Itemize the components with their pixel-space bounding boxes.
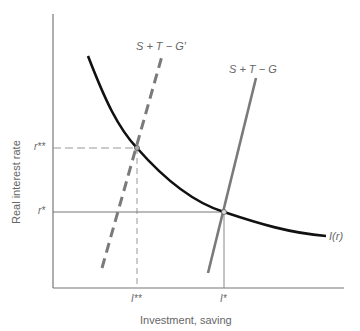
investment-curve [88, 56, 326, 236]
original-equilibrium-point [222, 210, 227, 215]
r-star-tick: r* [38, 205, 46, 216]
saving-curve-shifted [102, 56, 162, 268]
r-double-star-tick: r** [34, 141, 46, 152]
investment-curve-label: I(r) [329, 230, 343, 242]
new-equilibrium-point [135, 146, 140, 151]
saving-curve-original [208, 78, 256, 273]
x-axis-label: Investment, saving [140, 314, 232, 326]
i-double-star-tick: I** [131, 293, 143, 304]
i-star-tick: I* [220, 293, 228, 304]
saving-curve-original-label: S + T − G [229, 63, 277, 75]
saving-curve-shifted-label: S + T − G′ [136, 40, 187, 52]
saving-investment-diagram: S + T − G′ S + T − G I(r) r** r* I** I* … [0, 0, 360, 331]
y-axis-label: Real interest rate [10, 140, 22, 224]
